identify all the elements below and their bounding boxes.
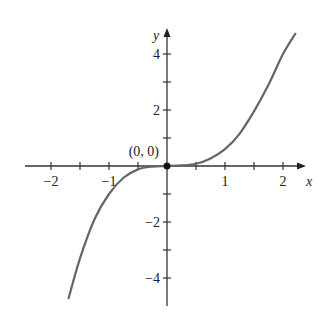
x-tick-label: 1 xyxy=(222,174,229,189)
x-axis-arrow-icon xyxy=(297,163,306,170)
x-tick-label: 2 xyxy=(280,174,287,189)
x-axis-label: x xyxy=(305,174,313,189)
origin-point-marker xyxy=(164,163,171,170)
origin-point-label: (0, 0) xyxy=(129,144,160,160)
y-tick-label: −4 xyxy=(145,271,160,286)
y-axis-label: y xyxy=(151,28,160,43)
y-tick-label: 2 xyxy=(153,103,160,118)
y-tick-label: −2 xyxy=(145,215,160,230)
cubic-curve-chart: −2−11242−2−4 (0, 0) x y xyxy=(0,0,329,316)
y-tick-label: 4 xyxy=(153,47,160,62)
x-tick-label: −2 xyxy=(44,174,59,189)
y-axis-arrow-icon xyxy=(164,28,171,37)
